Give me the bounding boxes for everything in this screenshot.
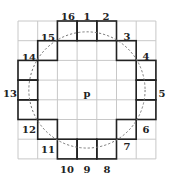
circle-pixel-3 — [117, 41, 137, 61]
fast-corner-diagram: 16123456789101112131415p — [0, 0, 174, 183]
circle-pixel-5 — [136, 80, 156, 100]
pixel-label-10: 10 — [60, 164, 74, 175]
pixel-label-16: 16 — [61, 11, 75, 22]
circle-pixel-13 — [18, 80, 38, 100]
circle-pixel-9 — [77, 139, 97, 159]
circle-pixel-12 — [18, 100, 38, 120]
pixel-label-11: 11 — [41, 144, 55, 155]
pixel-label-14: 14 — [22, 52, 36, 63]
pixel-label-15: 15 — [41, 32, 55, 43]
pixel-label-9: 9 — [84, 164, 91, 175]
pixel-labels: 16123456789101112131415p — [3, 11, 165, 175]
circle-pixel-15 — [38, 41, 58, 61]
pixel-label-12: 12 — [22, 124, 36, 135]
pixel-label-13: 13 — [3, 88, 17, 99]
pixel-label-8: 8 — [104, 164, 111, 175]
circle-pixel-16 — [57, 21, 77, 41]
center-pixel-label: p — [84, 88, 91, 99]
circle-pixel-2 — [97, 21, 117, 41]
pixel-label-7: 7 — [124, 141, 131, 152]
pixel-label-2: 2 — [103, 11, 110, 22]
circle-pixel-11 — [38, 120, 58, 140]
circle-pixel-1 — [77, 21, 97, 41]
pixel-label-6: 6 — [143, 124, 150, 135]
pixel-label-5: 5 — [159, 88, 166, 99]
circle-pixel-14 — [18, 60, 38, 80]
pixel-label-4: 4 — [143, 51, 150, 62]
pixel-label-1: 1 — [84, 11, 91, 22]
pixel-label-3: 3 — [124, 31, 131, 42]
circle-pixel-7 — [117, 120, 137, 140]
